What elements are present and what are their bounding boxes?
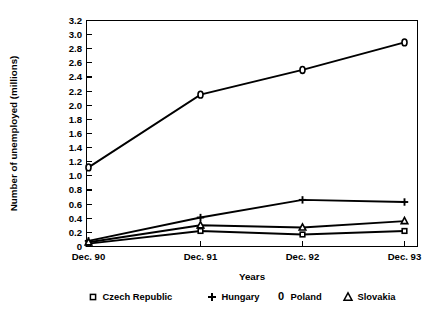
data-point [402, 229, 407, 234]
legend-item-poland[interactable]: 0Poland [278, 290, 322, 302]
data-point [401, 198, 408, 205]
y-tick-label: 2.6 [69, 57, 82, 68]
data-point [299, 224, 306, 230]
data-point [300, 232, 305, 237]
legend-item-label: Slovakia [358, 291, 397, 302]
y-tick-label: 0.4 [69, 213, 83, 224]
legend-item-label: Hungary [222, 291, 261, 302]
y-tick-label: 0.8 [69, 184, 83, 195]
data-point [402, 39, 407, 46]
y-tick-label: 3.2 [69, 15, 82, 26]
y-tick-label: 1.2 [69, 156, 82, 167]
unemployment-line-chart: 00.20.40.60.81.01.21.41.61.82.02.22.42.6… [0, 0, 442, 319]
y-axis-title: Number of unemployed (millions) [8, 56, 19, 212]
legend-item-label: Poland [291, 291, 323, 302]
series-poland [86, 39, 407, 171]
x-tick-label: Dec. 92 [286, 251, 320, 262]
data-point [86, 164, 91, 171]
zero-marker-icon: 0 [278, 290, 284, 302]
y-tick-label: 2.8 [69, 43, 83, 54]
x-axis-title: Years [239, 271, 266, 282]
y-tick-label: 2.2 [69, 86, 82, 97]
legend-item-slovakia[interactable]: Slovakia [344, 291, 396, 302]
y-tick-label: 1.4 [69, 142, 83, 153]
y-tick-label: 0.6 [69, 199, 82, 210]
data-point [401, 217, 408, 223]
svg-text:0: 0 [278, 290, 284, 302]
y-tick-label: 1.6 [69, 128, 82, 139]
legend-item-label: Czech Republic [103, 291, 173, 302]
y-tick-label: 0.2 [69, 227, 82, 238]
data-point [198, 229, 203, 234]
plus-marker-icon [208, 293, 216, 301]
y-tick-label: 2.0 [69, 100, 82, 111]
data-point [300, 67, 305, 74]
x-tick-label: Dec. 93 [388, 251, 422, 262]
legend-item-czech-republic[interactable]: Czech Republic [90, 291, 172, 302]
y-tick-label: 3.0 [69, 29, 82, 40]
chart-canvas: 00.20.40.60.81.01.21.41.61.82.02.22.42.6… [0, 0, 442, 319]
data-point [299, 196, 306, 203]
legend-item-hungary[interactable]: Hungary [208, 291, 260, 302]
y-axis: 00.20.40.60.81.01.21.41.61.82.02.22.42.6… [69, 15, 92, 252]
y-tick-label: 2.4 [69, 71, 83, 82]
x-tick-label: Dec. 91 [184, 251, 218, 262]
x-tick-label: Dec. 90 [72, 251, 106, 262]
data-point [197, 222, 204, 228]
data-point [198, 91, 203, 98]
square-marker-icon [90, 294, 95, 299]
plot-frame [87, 21, 418, 247]
x-axis: Dec. 90Dec. 91Dec. 92Dec. 93 [72, 241, 422, 262]
y-tick-label: 1.8 [69, 114, 83, 125]
chart-legend: Czech RepublicHungary0PolandSlovakia [90, 290, 396, 302]
series-hungary [85, 196, 408, 244]
triangle-marker-icon [344, 293, 352, 300]
y-tick-label: 1.0 [69, 170, 82, 181]
